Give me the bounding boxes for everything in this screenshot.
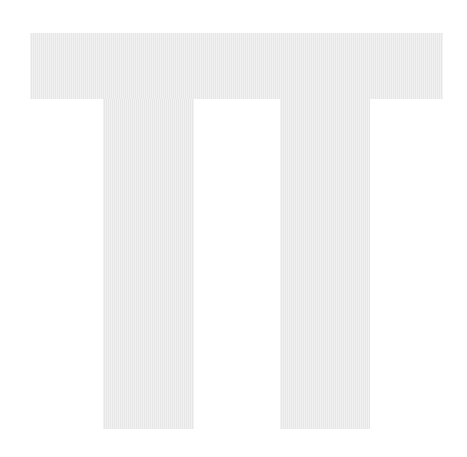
pi-left-leg (103, 99, 194, 429)
glyph-label: Π (0, 0, 1, 1)
pi-right-leg (280, 99, 370, 429)
pi-top-bar (30, 33, 443, 99)
